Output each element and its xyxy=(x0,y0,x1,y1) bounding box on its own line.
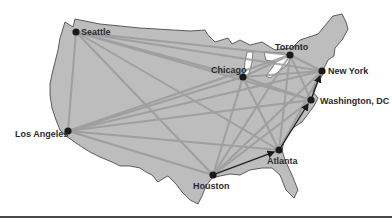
city-label-chicago: Chicago xyxy=(211,65,247,75)
city-label-newyork: New York xyxy=(328,66,369,76)
city-label-washington: Washington, DC xyxy=(320,96,390,106)
map-svg: Seattle Chicago Toronto New York Washing… xyxy=(0,0,392,222)
network-map: Seattle Chicago Toronto New York Washing… xyxy=(0,0,392,222)
city-node-toronto[interactable] xyxy=(286,51,293,58)
city-label-seattle: Seattle xyxy=(81,27,111,37)
city-node-atlanta[interactable] xyxy=(275,146,282,153)
city-node-newyork[interactable] xyxy=(318,67,325,74)
city-node-seattle[interactable] xyxy=(72,28,79,35)
city-node-washington[interactable] xyxy=(307,96,314,103)
city-label-toronto: Toronto xyxy=(275,42,309,52)
bottom-divider xyxy=(0,216,392,218)
city-label-houston: Houston xyxy=(193,181,230,191)
city-label-losangeles: Los Angeles xyxy=(15,129,68,139)
city-node-houston[interactable] xyxy=(209,171,216,178)
city-label-atlanta: Atlanta xyxy=(267,156,298,166)
